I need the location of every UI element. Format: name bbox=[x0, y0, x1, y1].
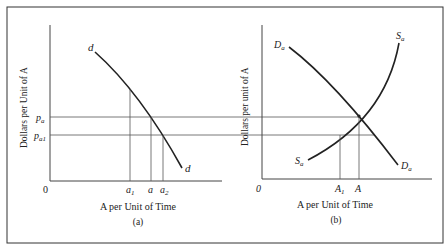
label-Sa-bottom: Sa bbox=[295, 155, 304, 168]
tick-A1: A1 bbox=[334, 183, 345, 196]
panel-b-caption: (b) bbox=[330, 215, 341, 226]
panel-b-ylabel: Dollars per unit of A bbox=[240, 67, 250, 146]
label-Sa-top: Sa bbox=[396, 30, 405, 43]
supply-curve-Sa bbox=[308, 43, 399, 160]
curve-label-d-bottom: d bbox=[185, 162, 191, 174]
tick-a1: a1 bbox=[126, 184, 135, 197]
panel-b: Da Da Sa Sa 0 A1 A Dollars per unit of A… bbox=[240, 25, 432, 226]
tick-a: a bbox=[148, 184, 153, 195]
figure-canvas: d d pa pa1 0 a1 a a2 Dollars per Unit of… bbox=[0, 0, 445, 249]
tick-pa1: pa1 bbox=[33, 130, 46, 143]
label-Da-bottom: Da bbox=[400, 160, 412, 173]
origin-a: 0 bbox=[43, 184, 48, 195]
origin-b: 0 bbox=[256, 183, 261, 194]
panel-a-xlabel: A per Unit of Time bbox=[100, 201, 177, 212]
demand-curve-d bbox=[95, 52, 182, 168]
tick-a2: a2 bbox=[160, 184, 169, 197]
curve-label-d-top: d bbox=[88, 41, 94, 53]
panel-a: d d pa pa1 0 a1 a a2 Dollars per Unit of… bbox=[19, 25, 374, 228]
tick-pa: pa bbox=[35, 112, 45, 125]
panel-b-xlabel: A per Unit of Time bbox=[297, 199, 374, 210]
panel-a-caption: (a) bbox=[133, 217, 144, 228]
tick-A: A bbox=[354, 183, 362, 194]
equilibrium-point bbox=[357, 114, 360, 117]
demand-curve-Da bbox=[289, 47, 398, 165]
label-Da-top: Da bbox=[273, 39, 285, 52]
figure-frame bbox=[7, 7, 443, 243]
panel-a-ylabel: Dollars per Unit of A bbox=[19, 67, 29, 148]
